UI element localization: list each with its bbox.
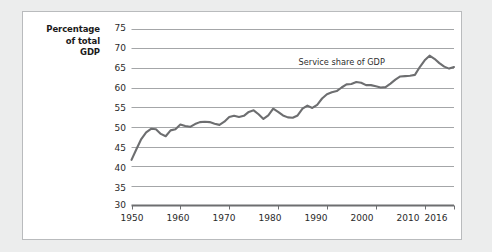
series-annotation-service-share: Service share of GDP — [299, 57, 385, 67]
x-tick-label-1970: 1970 — [204, 213, 244, 223]
x-tick-label-2016: 2016 — [416, 213, 456, 223]
x-tick-label-2000: 2000 — [342, 213, 382, 223]
y-tick-label-45: 45 — [104, 143, 126, 153]
y-axis-title: Percentage of total GDP — [26, 24, 100, 59]
x-tick-label-1980: 1980 — [250, 213, 290, 223]
y-axis-title-line-2: of total — [26, 36, 100, 48]
y-tick-label-65: 65 — [104, 63, 126, 73]
y-tick-label-35: 35 — [104, 183, 126, 193]
y-tick-label-55: 55 — [104, 103, 126, 113]
y-tick-label-40: 40 — [104, 163, 126, 173]
y-tick-label-60: 60 — [104, 83, 126, 93]
x-tick-label-1950: 1950 — [112, 213, 152, 223]
service-share-line-chart: Percentage of total GDP 75 70 65 60 55 5… — [0, 0, 492, 252]
y-axis-title-line-3: GDP — [26, 47, 100, 59]
y-axis-title-line-1: Percentage — [26, 24, 100, 36]
y-tick-label-30: 30 — [104, 200, 126, 210]
y-tick-label-50: 50 — [104, 123, 126, 133]
x-tick-label-1960: 1960 — [158, 213, 198, 223]
x-tick-label-1990: 1990 — [296, 213, 336, 223]
gridlines — [132, 30, 455, 187]
y-tick-label-75: 75 — [104, 23, 126, 33]
y-tick-label-70: 70 — [104, 43, 126, 53]
